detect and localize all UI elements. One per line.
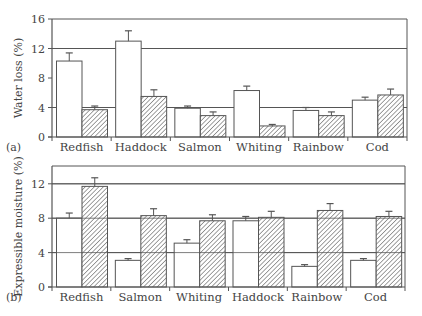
open-bar-redfish xyxy=(57,61,83,137)
y-tick-label: 8 xyxy=(38,72,45,85)
category-label: Cod xyxy=(364,290,388,304)
category-label: Haddock xyxy=(115,140,168,154)
open-bar-haddock xyxy=(233,221,259,287)
hatched-bar-whiting xyxy=(260,126,286,137)
open-bar-whiting xyxy=(174,243,200,287)
category-label: Salmon xyxy=(118,290,162,304)
bar-group-haddock xyxy=(233,211,284,287)
hatched-bar-cod xyxy=(378,95,404,137)
hatched-bar-salmon xyxy=(200,116,226,137)
y-axis-title: Water loss (%) xyxy=(12,38,25,119)
chart-figure: RedfishHaddockSalmonWhitingRainbowCod048… xyxy=(0,0,422,316)
panel-label: (a) xyxy=(6,141,21,154)
category-label: Rainbow xyxy=(293,140,344,154)
panel-b-expressible-moisture: RedfishSalmonWhitingHaddockRainbowCod048… xyxy=(6,156,405,304)
bar-group-rainbow xyxy=(293,108,344,138)
y-tick-label: 4 xyxy=(38,102,45,115)
bar-group-whiting xyxy=(174,215,225,287)
hatched-bar-cod xyxy=(376,216,402,287)
category-label: Haddock xyxy=(232,290,285,304)
bar-group-haddock xyxy=(116,31,167,137)
open-bar-salmon xyxy=(115,260,141,287)
bar-group-salmon xyxy=(175,106,226,137)
y-tick-label: 16 xyxy=(31,13,45,26)
y-axis-title: Expressible moisture (%) xyxy=(12,156,25,296)
bar-group-cod xyxy=(351,211,402,287)
category-label: Whiting xyxy=(176,290,223,304)
bar-group-redfish xyxy=(57,178,108,287)
open-bar-cod xyxy=(351,260,377,287)
hatched-bar-redfish xyxy=(82,110,108,137)
hatched-bar-salmon xyxy=(141,216,167,287)
hatched-bar-whiting xyxy=(200,221,226,287)
category-label: Whiting xyxy=(236,140,283,154)
panel-label: (b) xyxy=(6,291,22,304)
open-bar-cod xyxy=(352,100,378,137)
open-bar-salmon xyxy=(175,108,201,137)
open-bar-haddock xyxy=(116,41,141,137)
hatched-bar-haddock xyxy=(141,96,167,137)
hatched-bar-rainbow xyxy=(317,210,343,287)
hatched-bar-redfish xyxy=(82,186,108,287)
y-tick-label: 0 xyxy=(38,131,45,144)
bar-group-redfish xyxy=(57,53,108,137)
y-tick-label: 12 xyxy=(31,43,45,56)
category-label: Redfish xyxy=(60,290,104,304)
bar-group-whiting xyxy=(234,86,285,137)
bar-group-rainbow xyxy=(292,204,343,287)
category-label: Salmon xyxy=(178,140,222,154)
y-tick-label: 12 xyxy=(31,178,45,191)
category-label: Cod xyxy=(366,140,390,154)
open-bar-whiting xyxy=(234,91,260,137)
y-tick-label: 4 xyxy=(38,247,45,260)
category-label: Rainbow xyxy=(291,290,342,304)
y-tick-label: 8 xyxy=(38,212,45,225)
open-bar-rainbow xyxy=(293,110,319,137)
bar-group-salmon xyxy=(115,209,166,287)
open-bar-rainbow xyxy=(292,266,318,287)
category-label: Redfish xyxy=(60,140,104,154)
y-tick-label: 0 xyxy=(38,281,45,294)
panel-a-water-loss: RedfishHaddockSalmonWhitingRainbowCod048… xyxy=(6,13,407,154)
bar-group-cod xyxy=(352,89,403,137)
hatched-bar-rainbow xyxy=(319,116,345,137)
